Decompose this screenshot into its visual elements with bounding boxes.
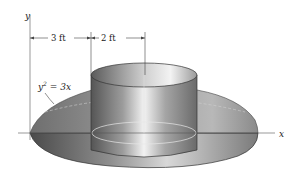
equation-leader-line [45,93,54,104]
parabolic-dish-diagram: y x 3 ft 2 ft y2 = 3x [0,0,300,173]
dimension-2ft-label: 2 ft [101,33,116,43]
equation-rhs: = 3x [47,82,71,92]
curve-equation-label: y2 = 3x [37,80,71,92]
arrowhead-icon [91,37,95,40]
dimension-3ft-label: 3 ft [51,33,66,43]
arrowhead-icon [141,37,145,40]
arrowhead-icon [30,37,34,40]
x-axis-label: x [279,129,284,139]
y-axis-label: y [24,11,31,21]
arrowhead-icon [87,37,91,40]
